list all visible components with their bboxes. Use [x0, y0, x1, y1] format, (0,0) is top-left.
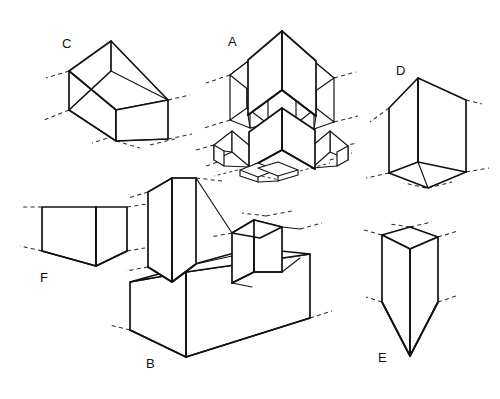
figure-label-A: A	[228, 34, 237, 49]
figure-D-group: D	[366, 63, 489, 188]
figure-label-C: C	[62, 36, 72, 51]
figure-C-body	[69, 41, 168, 141]
figure-F-group: F	[20, 204, 147, 285]
figure-C-group: C	[44, 36, 192, 148]
figure-B-shelf-connector	[196, 178, 232, 233]
drawing-sheet: C	[0, 0, 500, 399]
figure-A-lower-left-base-edge	[224, 166, 250, 167]
figure-F-right-face	[96, 207, 127, 266]
figure-B-small-cube-right-top-edge	[282, 227, 300, 229]
figure-A-lower-tier	[214, 108, 348, 182]
figure-F-left-face	[42, 207, 96, 266]
figure-E-body	[382, 227, 438, 356]
figure-A-group: A	[196, 31, 358, 182]
figure-B-group: B	[110, 178, 332, 371]
figure-F-body	[42, 207, 127, 266]
figure-E-left-face	[382, 235, 410, 356]
solids-illustration: C	[0, 0, 500, 399]
figure-B-tall-block-left-face	[148, 178, 172, 282]
figure-E-right-face	[410, 237, 438, 356]
figure-A-plinth-bottom-edge	[258, 181, 278, 182]
figure-label-D: D	[396, 63, 406, 78]
figure-D-right-face	[418, 78, 466, 172]
figure-label-B: B	[146, 356, 155, 371]
figure-label-E: E	[378, 350, 387, 365]
figure-D-left-face	[389, 78, 418, 173]
figure-A-lower-left-front	[232, 131, 250, 167]
figure-B-tall-block	[148, 178, 196, 282]
figure-E-group: E	[364, 222, 458, 365]
figure-D-body	[389, 78, 466, 188]
figure-label-F: F	[40, 270, 48, 285]
